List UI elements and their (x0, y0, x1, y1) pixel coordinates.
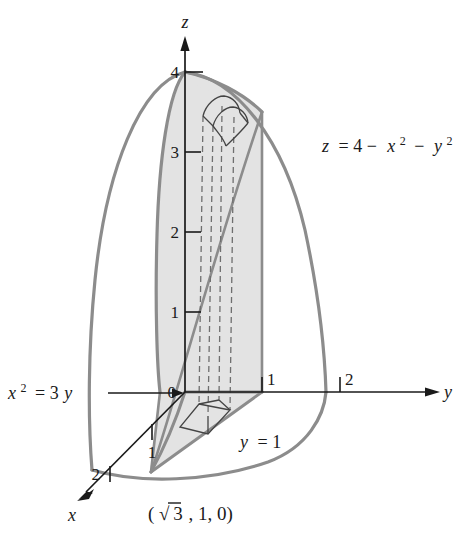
z-tick-label-3: 3 (171, 143, 180, 162)
plane-eq-rest: = 1 (258, 432, 282, 452)
parabola-eq-rest: = 3 (35, 383, 59, 403)
corner-radicand: 3 (173, 503, 183, 524)
surface-eq-y-exponent: 2 (446, 134, 452, 148)
x-tick-label-2: 2 (92, 465, 101, 484)
corner-rest: , 1, 0) (189, 503, 233, 525)
y-tick-label-2: 2 (345, 370, 354, 389)
surface-eq-x: x (386, 136, 395, 156)
figure-container: z y x 0 1 2 3 4 1 2 1 2 z = 4 − x 2 − y … (0, 0, 461, 537)
z-tick-label-1: 1 (171, 303, 180, 322)
corner-radical-sign: √ (159, 503, 170, 524)
corner-open-paren: ( (148, 503, 154, 525)
solid-region-diagram: z y x 0 1 2 3 4 1 2 1 2 z = 4 − x 2 − y … (0, 0, 461, 537)
parabola-eq-x: x (7, 383, 16, 403)
surface-eq-z: z (321, 136, 329, 156)
surface-eq-x-exponent: 2 (400, 134, 406, 148)
z-axis-label: z (180, 12, 188, 32)
corner-point-text: ( √ 3 , 1, 0) (148, 503, 233, 525)
surface-eq-minus: − (414, 136, 424, 156)
plane-eq-y: y (238, 432, 248, 452)
y-axis-label: y (442, 382, 452, 402)
x-axis-label: x (67, 505, 76, 525)
plane-equation-text: y = 1 (238, 432, 281, 452)
plane-equation-label: y = 1 (238, 432, 281, 452)
corner-point-label: ( √ 3 , 1, 0) (148, 503, 233, 525)
z-tick-label-0: 0 (168, 383, 177, 402)
x-tick-label-1: 1 (148, 443, 157, 462)
y-tick-label-1: 1 (267, 370, 276, 389)
parabola-eq-y: y (62, 383, 72, 403)
z-tick-label-4: 4 (171, 63, 180, 82)
parabola-eq-x-exponent: 2 (21, 381, 27, 395)
surface-eq-rhs: = 4 − (339, 136, 377, 156)
z-tick-label-2: 2 (171, 223, 180, 242)
surface-eq-y: y (432, 136, 442, 156)
